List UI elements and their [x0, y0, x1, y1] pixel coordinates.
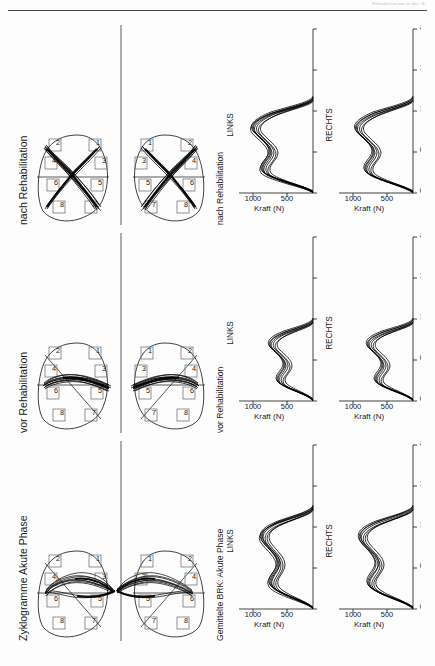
svg-text:7: 7 [92, 408, 96, 417]
cyclogram-panel-post: 1 2 3 4 5 6 7 8 1 2 3 4 5 [33, 25, 209, 225]
svg-text:0.5: 0.5 [419, 561, 420, 570]
force-title-post: nach Rehabilitation [215, 25, 225, 225]
force-plot-acute-right: 500 1000 Kraft (N) 0.0 0.5 1.0 1.5 2.0 Z… [335, 441, 421, 641]
svg-text:2: 2 [188, 554, 192, 563]
svg-text:8: 8 [184, 200, 188, 209]
svg-text:1: 1 [148, 346, 152, 355]
force-side-label-pre-left: LINKS [225, 233, 234, 433]
svg-text:6: 6 [54, 594, 58, 603]
svg-text:1.5: 1.5 [419, 271, 420, 280]
force-side-label-acute-left: LINKS [225, 441, 234, 641]
svg-text:1000: 1000 [344, 194, 360, 203]
svg-text:8: 8 [184, 408, 188, 417]
svg-text:8: 8 [184, 616, 188, 625]
force-side-label-post-left: LINKS [225, 25, 234, 225]
svg-text:1: 1 [148, 138, 152, 147]
svg-text:2.0: 2.0 [419, 233, 420, 239]
force-title-acute: Gemittelte BRK: Akute Phase [215, 441, 225, 641]
force-plot-acute-left: 500 1000 Kraft (N) [235, 441, 321, 641]
svg-text:6: 6 [54, 178, 58, 187]
svg-text:7: 7 [152, 408, 156, 417]
svg-text:500: 500 [380, 610, 392, 619]
svg-text:500: 500 [280, 610, 292, 619]
svg-text:7: 7 [92, 616, 96, 625]
svg-text:Kraft (N): Kraft (N) [353, 204, 384, 213]
running-head: Rehabilitation in der G [215, 1, 425, 6]
cyclogram-panel-pre: 1 2 3 4 5 6 7 8 1 2 3 4 5 [33, 233, 209, 433]
figure-page: Rehabilitation in der G Zyklogramme Akut… [0, 0, 435, 666]
force-plot-pre-right: 500 1000 Kraft (N) 0.0 0.5 1.0 1.5 2.0 Z… [335, 233, 421, 433]
svg-text:1.0: 1.0 [419, 312, 420, 321]
svg-text:6: 6 [190, 386, 194, 395]
svg-text:0.0: 0.0 [419, 602, 420, 611]
rotated-figure-wrapper: Zyklogramme Akute Phase [17, 21, 419, 645]
force-group-pre: vor Rehabilitation LINKS [215, 233, 419, 433]
svg-text:6: 6 [54, 386, 58, 395]
svg-text:0.0: 0.0 [419, 186, 420, 195]
header-rule [8, 10, 427, 11]
force-side-label-acute-right: RECHTS [325, 441, 334, 641]
figure-column-acute: Zyklogramme Akute Phase [17, 441, 419, 641]
svg-text:Kraft (N): Kraft (N) [353, 412, 384, 421]
svg-text:4: 4 [192, 572, 196, 581]
svg-text:0.0: 0.0 [419, 394, 420, 403]
svg-text:4: 4 [52, 572, 56, 581]
force-group-acute: Gemittelte BRK: Akute Phase LINKS [215, 441, 419, 641]
svg-text:0.5: 0.5 [419, 145, 420, 154]
svg-text:8: 8 [60, 408, 64, 417]
svg-text:500: 500 [380, 402, 392, 411]
svg-text:3: 3 [142, 156, 146, 165]
svg-text:1000: 1000 [344, 402, 360, 411]
svg-text:1000: 1000 [244, 194, 260, 203]
svg-text:5: 5 [98, 178, 102, 187]
svg-text:3: 3 [102, 156, 106, 165]
cyclogram-title-post: nach Rehabilitation [17, 25, 29, 225]
svg-text:2: 2 [188, 138, 192, 147]
svg-text:8: 8 [60, 616, 64, 625]
svg-text:5: 5 [146, 178, 150, 187]
force-side-label-post-right: RECHTS [325, 25, 334, 225]
figure-column-post: nach Rehabilitation [17, 25, 419, 225]
svg-text:Kraft (N): Kraft (N) [253, 412, 284, 421]
svg-text:2.0: 2.0 [419, 25, 420, 31]
force-plot-post-left: 500 1000 Kraft (N) [235, 25, 321, 225]
figure-canvas: Zyklogramme Akute Phase [17, 21, 419, 645]
svg-text:0.5: 0.5 [419, 353, 420, 362]
svg-text:2: 2 [56, 346, 60, 355]
svg-text:5: 5 [146, 594, 150, 603]
cyclogram-panel-acute: 1 2 3 4 5 6 7 8 [33, 441, 209, 641]
svg-text:1.5: 1.5 [419, 63, 420, 72]
svg-text:3: 3 [102, 364, 106, 373]
svg-text:1000: 1000 [244, 610, 260, 619]
force-plot-pre-left: 500 1000 Kraft (N) [235, 233, 321, 433]
svg-text:4: 4 [192, 364, 196, 373]
svg-text:1: 1 [96, 554, 100, 563]
cyclogram-svg-post: 1 2 3 4 5 6 7 8 1 2 3 4 5 [33, 25, 209, 225]
force-group-post: nach Rehabilitation LINKS [215, 25, 419, 225]
svg-text:500: 500 [380, 194, 392, 203]
svg-text:5: 5 [146, 386, 150, 395]
svg-text:4: 4 [192, 156, 196, 165]
figure-column-pre: vor Rehabilitation [17, 233, 419, 433]
svg-text:2: 2 [56, 138, 60, 147]
svg-text:1: 1 [96, 346, 100, 355]
cyclogram-title-acute: Zyklogramme Akute Phase [17, 441, 29, 641]
svg-text:2.0: 2.0 [419, 441, 420, 447]
svg-text:1: 1 [148, 554, 152, 563]
svg-text:500: 500 [280, 402, 292, 411]
svg-text:Kraft (N): Kraft (N) [353, 620, 384, 629]
svg-text:500: 500 [280, 194, 292, 203]
force-plot-post-right: 500 1000 Kraft (N) 0.0 0.5 1.0 1.5 2.0 Z… [335, 25, 421, 225]
svg-text:1.0: 1.0 [419, 104, 420, 113]
svg-text:Kraft (N): Kraft (N) [253, 620, 284, 629]
force-side-label-pre-right: RECHTS [325, 233, 334, 433]
svg-text:4: 4 [52, 364, 56, 373]
svg-text:1.5: 1.5 [419, 479, 420, 488]
svg-text:6: 6 [190, 178, 194, 187]
cyclogram-svg-acute: 1 2 3 4 5 6 7 8 [33, 441, 209, 641]
force-title-pre: vor Rehabilitation [215, 233, 225, 433]
svg-text:1000: 1000 [344, 610, 360, 619]
svg-text:8: 8 [60, 200, 64, 209]
svg-text:Kraft (N): Kraft (N) [253, 204, 284, 213]
svg-text:1.0: 1.0 [419, 520, 420, 529]
